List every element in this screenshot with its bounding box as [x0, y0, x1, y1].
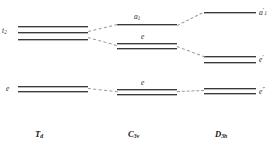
c3v-e-upper-line-2 — [117, 48, 177, 49]
corr-td-e-to-c3v-e-lower — [88, 88, 118, 92]
corr-c3v-a1-to-d3h-a1-prime — [177, 13, 202, 26]
corr-c3v-e-lower-to-d3h-e-doubleprime — [177, 90, 204, 92]
td-t2-line-1 — [18, 26, 88, 27]
point-group-d3h: D3h — [215, 130, 227, 140]
d3h-e-doubleprime-line-1 — [204, 88, 256, 89]
td-t2-line-2 — [18, 32, 88, 33]
c3v-e-lower-line-1 — [117, 89, 177, 90]
d3h-e-doubleprime-line-2 — [204, 93, 256, 94]
point-group-c3v: C3v — [128, 130, 139, 140]
d3h-e-doubleprime-label: e″ — [259, 86, 265, 95]
c3v-e-upper-label: e — [141, 33, 144, 41]
td-e-line-2 — [18, 91, 88, 92]
c3v-e-lower-label: e — [141, 79, 144, 87]
td-e-line-1 — [18, 86, 88, 87]
c3v-e-upper-line-1 — [117, 43, 177, 44]
c3v-a1-label: a1 — [134, 13, 140, 21]
td-t2-label: t2 — [2, 27, 7, 35]
d3h-e-prime-line-2 — [204, 62, 256, 63]
corr-td-t2-to-c3v-a1 — [88, 24, 117, 32]
td-e-label: e — [6, 85, 9, 93]
d3h-e-prime-label: e′ — [259, 54, 264, 63]
c3v-a1-line-1 — [117, 24, 177, 25]
corr-td-t2-to-c3v-e-upper — [88, 37, 118, 46]
td-t2-line-3 — [18, 39, 88, 40]
d3h-a1-prime-label: a′1 — [259, 7, 267, 17]
d3h-e-prime-line-1 — [204, 56, 256, 57]
orbital-correlation-diagram: t2 e a1 e e a′1 e′ e″ — [0, 0, 276, 154]
c3v-e-lower-line-2 — [117, 94, 177, 95]
corr-c3v-e-upper-to-d3h-e-prime — [177, 46, 205, 57]
d3h-a1-prime-line-1 — [204, 12, 256, 13]
point-group-td: Td — [35, 130, 43, 140]
